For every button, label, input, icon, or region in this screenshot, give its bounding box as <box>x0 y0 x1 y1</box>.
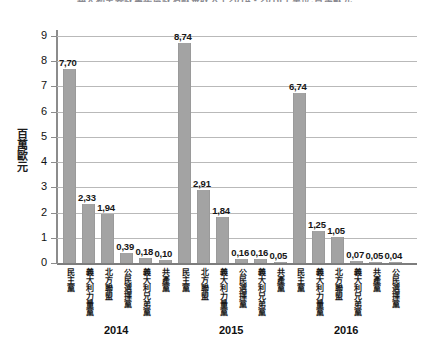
gridline-3 <box>57 187 417 188</box>
bar[interactable] <box>197 190 210 263</box>
category-label: 北方聯盟 <box>197 268 208 300</box>
bar-value-label: 0,07 <box>346 250 364 260</box>
bar-value-label: 6,74 <box>289 82 307 92</box>
year-label-2014: 2014 <box>86 324 146 336</box>
category-label: 北方聯盟 <box>331 268 342 300</box>
category-label: 義大利力量黨 <box>312 268 323 316</box>
bar-value-label: 0,16 <box>250 248 268 258</box>
bar-value-label: 0,39 <box>116 242 134 252</box>
category-label: 義大利兄弟黨 <box>139 268 150 316</box>
bar[interactable] <box>159 260 172 263</box>
category-label: 共產黨 <box>274 268 285 292</box>
bar-value-label: 2,91 <box>193 179 211 189</box>
bar-value-label: 0,18 <box>135 247 153 257</box>
y-tick-label-3: 3 <box>33 181 47 192</box>
bar-value-label: 8,74 <box>174 32 192 42</box>
bar[interactable] <box>369 262 382 263</box>
y-tick-label-7: 7 <box>33 80 47 91</box>
category-label: 民主黨 <box>178 268 189 292</box>
bar[interactable] <box>350 261 363 263</box>
chart-title: 義大利主要政黨年度政治獻金收入 ( 2014 - 2016 ) 單位:百萬歐元 <box>0 0 429 2</box>
bar-value-label: 1,25 <box>308 220 326 230</box>
bar[interactable] <box>139 258 152 263</box>
y-tick-label-8: 8 <box>33 55 47 66</box>
category-label: 義大利力量黨 <box>216 268 227 316</box>
bar[interactable] <box>178 43 191 263</box>
bar[interactable] <box>63 69 76 263</box>
bar-value-label: 0,05 <box>270 251 288 261</box>
year-label-2015: 2015 <box>201 324 261 336</box>
category-label: 公民選擇黨 <box>389 268 400 308</box>
y-axis-title: 百萬歐元 <box>12 128 28 172</box>
category-label: 北方聯盟 <box>101 268 112 300</box>
bar-value-label: 0,05 <box>365 251 383 261</box>
bar-value-label: 2,33 <box>78 193 96 203</box>
category-label: 公民選擇黨 <box>235 268 246 308</box>
bar[interactable] <box>216 217 229 263</box>
bar-value-label: 0,10 <box>155 249 173 259</box>
category-label: 共產黨 <box>159 268 170 292</box>
bar-value-label: 1,84 <box>212 206 230 216</box>
gridline-5 <box>57 137 417 138</box>
category-label: 公民選擇黨 <box>120 268 131 308</box>
y-tick-label-6: 6 <box>33 106 47 117</box>
bar-value-label: 0,16 <box>231 248 249 258</box>
y-tick-0 <box>51 263 58 264</box>
gridline-8 <box>57 61 417 62</box>
gridline-7 <box>57 86 417 87</box>
bar-value-label: 1,05 <box>327 226 345 236</box>
bar[interactable] <box>389 262 402 263</box>
y-tick-label-5: 5 <box>33 131 47 142</box>
bar[interactable] <box>293 93 306 263</box>
bar[interactable] <box>82 204 95 263</box>
bar[interactable] <box>331 237 344 263</box>
bar[interactable] <box>120 253 133 263</box>
category-label: 義大利兄弟黨 <box>350 268 361 316</box>
gridline-4 <box>57 162 417 163</box>
category-label: 義大利力量黨 <box>82 268 93 316</box>
bar[interactable] <box>254 259 267 263</box>
bar-value-label: 7,70 <box>59 58 77 68</box>
x-axis-line <box>57 263 417 265</box>
category-label: 義大利兄弟黨 <box>254 268 265 316</box>
y-tick-label-4: 4 <box>33 156 47 167</box>
category-label: 共產黨 <box>369 268 380 292</box>
gridline-9 <box>57 36 417 37</box>
y-tick-label-2: 2 <box>33 207 47 218</box>
bar[interactable] <box>312 231 325 263</box>
year-label-2016: 2016 <box>316 324 376 336</box>
bar-value-label: 1,94 <box>97 203 115 213</box>
bar[interactable] <box>235 259 248 263</box>
bar-value-label: 0,04 <box>385 251 403 261</box>
y-tick-label-0: 0 <box>33 257 47 268</box>
category-label: 民主黨 <box>63 268 74 292</box>
bar[interactable] <box>101 214 114 263</box>
category-label: 民主黨 <box>293 268 304 292</box>
y-tick-label-9: 9 <box>33 30 47 41</box>
y-tick-label-1: 1 <box>33 232 47 243</box>
gridline-6 <box>57 112 417 113</box>
plot-area: 7,702,331,940,390,180,108,742,911,840,16… <box>57 36 417 263</box>
bar[interactable] <box>274 262 287 263</box>
